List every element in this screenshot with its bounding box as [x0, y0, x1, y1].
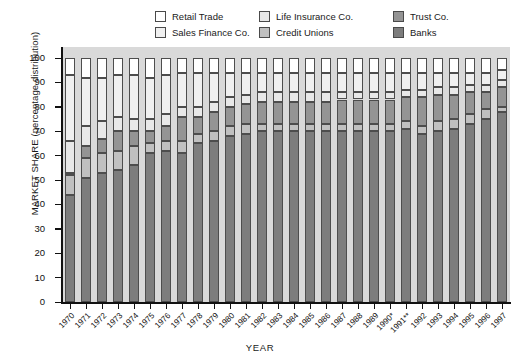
bar-segment-credit-unions [81, 158, 91, 178]
bar-segment-retail-trade [113, 58, 123, 75]
bar-segment-life-insurance-co [145, 119, 155, 131]
x-tick-mark [294, 304, 295, 309]
bar-segment-credit-unions [337, 124, 347, 131]
bar-segment-credit-unions [97, 153, 107, 173]
x-tick-mark [246, 304, 247, 309]
bar-segment-sales-finance-co [497, 70, 507, 80]
x-tick-mark [230, 304, 231, 309]
y-tick-label: 10 [15, 272, 45, 283]
x-tick-mark [454, 304, 455, 309]
bar-segment-sales-finance-co [273, 73, 283, 93]
bar-segment-retail-trade [305, 58, 315, 73]
y-tick-label: 100 [15, 52, 45, 63]
bar-segment-life-insurance-co [449, 87, 459, 94]
bar-segment-banks [465, 124, 475, 302]
bar-1980 [225, 58, 235, 302]
bar-segment-banks [369, 131, 379, 302]
bar-segment-life-insurance-co [385, 92, 395, 99]
bar-segment-trust-co [225, 107, 235, 127]
bar-1971 [81, 58, 91, 302]
bar-segment-credit-unions [449, 119, 459, 129]
bar-segment-trust-co [321, 102, 331, 124]
bar-segment-sales-finance-co [177, 73, 187, 107]
bar-1981 [241, 58, 251, 302]
bar-segment-banks [305, 131, 315, 302]
bar-segment-trust-co [337, 100, 347, 124]
bar-segment-banks [81, 178, 91, 302]
bar-segment-credit-unions [321, 124, 331, 131]
y-tick-mark [55, 58, 62, 59]
bar-segment-credit-unions [353, 124, 363, 131]
bar-segment-trust-co [289, 102, 299, 124]
bar-segment-sales-finance-co [241, 73, 251, 95]
bar-segment-sales-finance-co [353, 73, 363, 93]
y-axis-line [61, 47, 63, 303]
y-tick-label: 0 [15, 296, 45, 307]
bar-1979 [209, 58, 219, 302]
y-tick-label: 20 [15, 247, 45, 258]
bar-segment-credit-unions [225, 126, 235, 136]
bar-segment-sales-finance-co [193, 73, 203, 107]
y-tick-label: 70 [15, 125, 45, 136]
bar-segment-credit-unions [193, 134, 203, 144]
x-tick-mark [502, 304, 503, 309]
bar-segment-life-insurance-co [161, 114, 171, 126]
bar-segment-life-insurance-co [465, 85, 475, 92]
bar-segment-sales-finance-co [81, 78, 91, 127]
bar-1973 [113, 58, 123, 302]
bar-segment-credit-unions [65, 175, 75, 195]
bar-segment-retail-trade [433, 58, 443, 73]
bar-segment-banks [497, 112, 507, 302]
x-tick-mark [326, 304, 327, 309]
bar-segment-sales-finance-co [369, 73, 379, 93]
bar-segment-banks [97, 173, 107, 302]
bar-segment-banks [193, 143, 203, 302]
bar-segment-retail-trade [385, 58, 395, 73]
x-tick-mark [134, 304, 135, 309]
y-tick-mark [55, 131, 62, 132]
bar-1993 [433, 58, 443, 302]
bar-1995 [465, 58, 475, 302]
bar-segment-credit-unions [481, 109, 491, 119]
bar-segment-trust-co [273, 102, 283, 124]
bar-segment-banks [65, 195, 75, 302]
bar-segment-trust-co [353, 100, 363, 124]
bar-segment-banks [289, 131, 299, 302]
bar-1997 [497, 58, 507, 302]
bar-segment-banks [337, 131, 347, 302]
bar-segment-credit-unions [465, 114, 475, 124]
bar-segment-trust-co [417, 97, 427, 126]
bar-segment-sales-finance-co [209, 73, 219, 102]
legend-item-trust-co: Trust Co. [393, 11, 483, 22]
x-tick-mark [278, 304, 279, 309]
y-tick-mark [55, 302, 62, 303]
bar-segment-banks [417, 134, 427, 302]
legend-item-credit-unions: Credit Unions [259, 27, 389, 38]
bar-segment-life-insurance-co [305, 92, 315, 102]
bar-segment-sales-finance-co [337, 73, 347, 93]
bar-segment-retail-trade [401, 58, 411, 73]
bar-segment-credit-unions [241, 124, 251, 134]
bar-segment-life-insurance-co [193, 107, 203, 117]
bar-segment-life-insurance-co [481, 85, 491, 92]
bar-segment-credit-unions [401, 121, 411, 128]
bar-segment-credit-unions [497, 107, 507, 112]
y-tick-label: 40 [15, 198, 45, 209]
x-tick-mark [86, 304, 87, 309]
x-tick-mark [214, 304, 215, 309]
bar-segment-banks [257, 131, 267, 302]
bar-segment-credit-unions [209, 131, 219, 141]
bar-1984 [289, 58, 299, 302]
bar-segment-trust-co [193, 117, 203, 134]
bar-segment-credit-unions [113, 151, 123, 171]
bar-segment-trust-co [177, 117, 187, 141]
bar-segment-banks [353, 131, 363, 302]
bar-segment-credit-unions [145, 143, 155, 153]
bar-segment-credit-unions [369, 124, 379, 131]
bar-segment-retail-trade [337, 58, 347, 73]
bar-segment-sales-finance-co [305, 73, 315, 93]
bar-segment-trust-co [81, 146, 91, 158]
legend-label: Retail Trade [172, 11, 223, 22]
legend-swatch-icon [393, 11, 404, 22]
legend-label: Sales Finance Co. [172, 27, 250, 38]
